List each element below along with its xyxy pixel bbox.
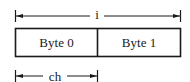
byte-0-cell: Byte 0	[16, 29, 97, 56]
byte-1-cell: Byte 1	[98, 29, 180, 56]
span-i-label: i	[92, 8, 102, 21]
span-ch-label: ch	[44, 70, 66, 82]
